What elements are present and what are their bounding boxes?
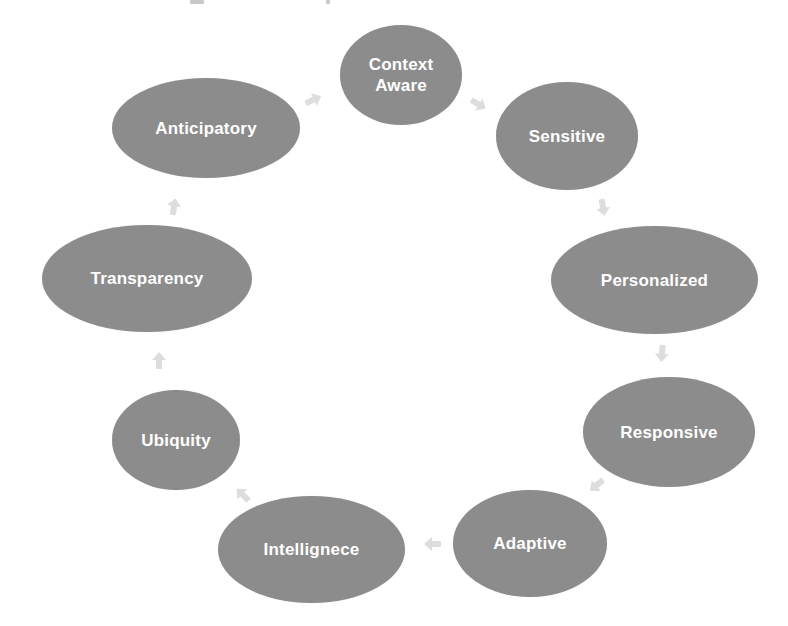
arrow-icon (298, 85, 327, 114)
node-label: Responsive (620, 422, 717, 443)
node-personalized: Personalized (551, 226, 758, 334)
arrow-icon (582, 470, 613, 501)
node-context-aware: Context Aware (340, 25, 462, 125)
clipped-caption-fragment (190, 0, 204, 4)
arrow-icon (161, 194, 186, 219)
node-sensitive: Sensitive (496, 82, 638, 190)
node-adaptive: Adaptive (453, 490, 607, 597)
arrow-icon (148, 350, 170, 372)
node-ubiquity: Ubiquity (112, 390, 240, 490)
arrow-icon (227, 479, 258, 510)
node-label: Ubiquity (141, 430, 211, 451)
node-label: Transparency (91, 268, 204, 289)
arrow-icon (422, 533, 444, 555)
node-label: Personalized (601, 270, 708, 291)
node-intellignece: Intellignece (218, 496, 405, 603)
node-label: Adaptive (493, 533, 566, 554)
node-responsive: Responsive (583, 377, 755, 487)
node-anticipatory: Anticipatory (112, 78, 300, 178)
node-transparency: Transparency (42, 225, 252, 332)
node-label: Intellignece (264, 539, 360, 560)
arrow-icon (590, 194, 615, 219)
arrow-icon (463, 89, 493, 119)
node-label: Context Aware (369, 54, 434, 96)
cycle-diagram: Context AwareSensitivePersonalizedRespon… (0, 0, 788, 626)
node-label: Anticipatory (155, 118, 257, 139)
arrow-icon (650, 341, 674, 365)
clipped-caption-fragment (326, 0, 330, 4)
node-label: Sensitive (529, 126, 605, 147)
